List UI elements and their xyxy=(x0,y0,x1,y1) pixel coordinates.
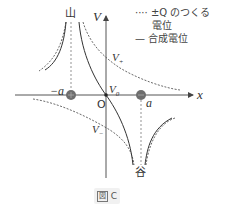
figure-caption: 図 C xyxy=(94,188,120,204)
solid-curve-left xyxy=(45,22,66,70)
x-axis-label: x xyxy=(197,88,203,101)
legend-dotted-text: ±Q のつくる xyxy=(151,7,210,18)
valley-label: 谷 xyxy=(135,167,146,178)
v-axis-label: V xyxy=(93,10,101,23)
solid-line-marker: — xyxy=(135,33,145,44)
caption-id: C xyxy=(111,191,117,201)
peak-label: 山 xyxy=(65,8,76,19)
vminus-label: V− xyxy=(92,124,103,138)
dotted-curve-minus-left xyxy=(33,99,134,165)
legend-solid-text: 合成電位 xyxy=(148,33,188,44)
caption-prefix: 図 xyxy=(97,191,108,202)
vplus-label: V+ xyxy=(112,52,123,66)
neg-a-label: −a xyxy=(50,85,64,97)
dotted-line-marker: ···· xyxy=(135,7,148,18)
legend-dotted-row: ···· ±Q のつくる xyxy=(135,6,210,19)
origin-point xyxy=(104,93,108,97)
legend-dotted-text-2: 電位 xyxy=(135,19,210,32)
legend-solid-row: — 合成電位 xyxy=(135,32,210,45)
v0-label: V0 xyxy=(109,84,119,98)
solid-curve-right xyxy=(145,118,172,165)
legend: ···· ±Q のつくる 電位 — 合成電位 xyxy=(135,6,210,45)
origin-label: O xyxy=(97,99,106,110)
pos-a-label: a xyxy=(146,97,152,109)
